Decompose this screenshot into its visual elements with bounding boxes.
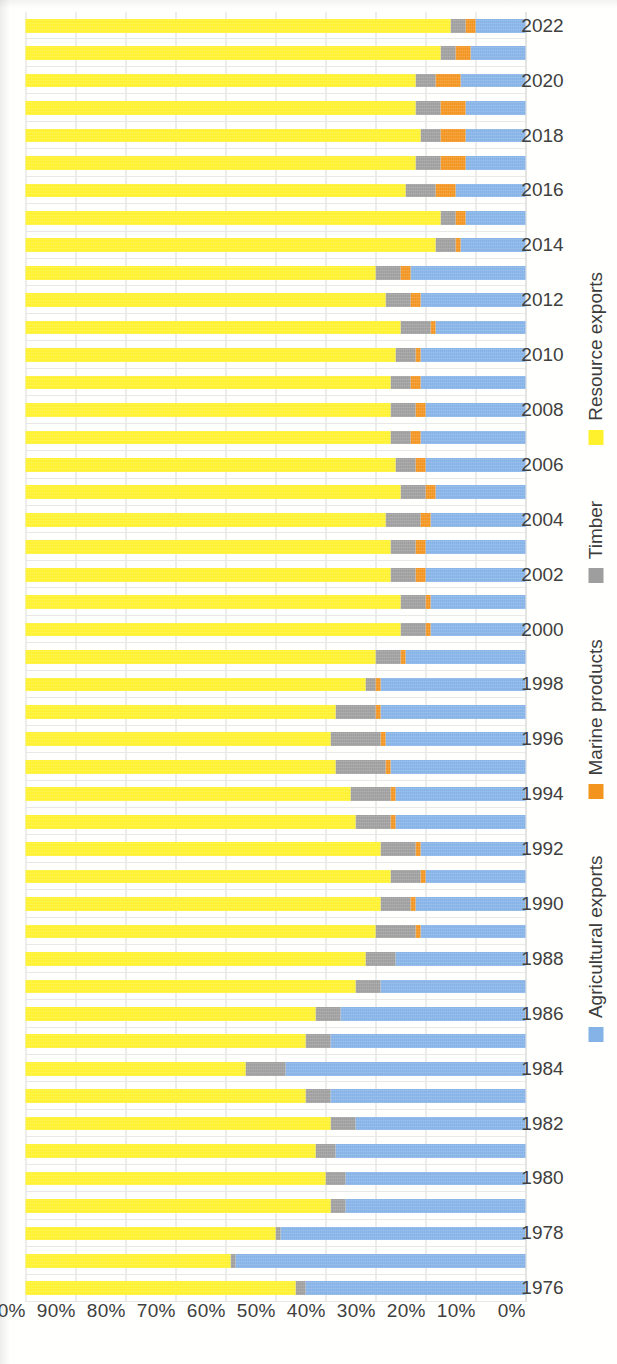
bar-segment-timber: [295, 1281, 305, 1295]
bar-1977[interactable]: [25, 1254, 525, 1268]
chart-plot-area: 0%10%20%30%40%50%60%70%80%90%100%: [25, 12, 525, 1302]
bar-segment-marine: [415, 403, 425, 417]
bar-1989[interactable]: [25, 925, 525, 939]
bar-segment-resource: [25, 293, 385, 307]
bar-1991[interactable]: [25, 870, 525, 884]
bar-1978[interactable]: [25, 1227, 525, 1241]
bar-segment-timber: [415, 74, 435, 88]
year-tick-2016: 2016: [531, 169, 553, 211]
bar-segment-timber: [375, 650, 400, 664]
bar-2015[interactable]: [25, 211, 525, 225]
bar-2001[interactable]: [25, 595, 525, 609]
bar-segment-resource: [25, 211, 440, 225]
bar-1999[interactable]: [25, 650, 525, 664]
bar-2010[interactable]: [25, 348, 525, 362]
bar-segment-marine: [420, 870, 425, 884]
category-separator: [25, 395, 525, 396]
bar-segment-agri: [305, 1281, 525, 1295]
year-tick-1976: 1976: [531, 1267, 553, 1309]
year-tick-label: 2008: [521, 399, 563, 421]
category-separator: [25, 450, 525, 451]
bar-2002[interactable]: [25, 568, 525, 582]
category-separator: [25, 66, 525, 67]
year-tick-label: 2016: [521, 179, 563, 201]
year-tick-label: 2000: [521, 619, 563, 641]
bar-1994[interactable]: [25, 787, 525, 801]
bar-segment-timber: [365, 678, 375, 692]
legend-item-agri[interactable]: Agricultural exports: [584, 855, 606, 1042]
legend-item-timber[interactable]: Timber: [584, 501, 606, 583]
bar-segment-agri: [455, 184, 525, 198]
bar-2008[interactable]: [25, 403, 525, 417]
bar-1997[interactable]: [25, 705, 525, 719]
bar-2017[interactable]: [25, 156, 525, 170]
bar-segment-agri: [465, 101, 525, 115]
year-tick-label: 2014: [521, 234, 563, 256]
value-axis-tick-10: 10%: [464, 1311, 486, 1350]
bar-segment-timber: [275, 1227, 280, 1241]
category-separator: [25, 1027, 525, 1028]
bar-1982[interactable]: [25, 1117, 525, 1131]
bar-2011[interactable]: [25, 321, 525, 335]
bar-segment-resource: [25, 321, 400, 335]
bar-2009[interactable]: [25, 376, 525, 390]
bar-2006[interactable]: [25, 458, 525, 472]
bar-2021[interactable]: [25, 46, 525, 60]
bar-1987[interactable]: [25, 980, 525, 994]
year-tick-2008: 2008: [531, 389, 553, 431]
bar-1976[interactable]: [25, 1281, 525, 1295]
category-separator: [25, 889, 525, 890]
bar-2007[interactable]: [25, 431, 525, 445]
bar-segment-resource: [25, 732, 330, 746]
bar-segment-marine: [420, 513, 430, 527]
bar-1992[interactable]: [25, 842, 525, 856]
bar-segment-timber: [390, 568, 415, 582]
bar-1985[interactable]: [25, 1034, 525, 1048]
year-tick-label: 1994: [521, 783, 563, 805]
category-separator: [25, 670, 525, 671]
category-separator: [25, 1274, 525, 1275]
bar-segment-timber: [420, 129, 440, 143]
bar-1998[interactable]: [25, 678, 525, 692]
bar-2013[interactable]: [25, 266, 525, 280]
bar-1993[interactable]: [25, 815, 525, 829]
bar-2012[interactable]: [25, 293, 525, 307]
bar-1980[interactable]: [25, 1172, 525, 1186]
bar-segment-timber: [375, 925, 415, 939]
bar-1984[interactable]: [25, 1062, 525, 1076]
bar-2004[interactable]: [25, 513, 525, 527]
bar-segment-timber: [330, 732, 380, 746]
bar-2022[interactable]: [25, 19, 525, 33]
bar-1983[interactable]: [25, 1089, 525, 1103]
bar-segment-marine: [410, 376, 420, 390]
bar-2003[interactable]: [25, 540, 525, 554]
bar-1990[interactable]: [25, 897, 525, 911]
legend-item-resource[interactable]: Resource exports: [584, 272, 606, 445]
bar-segment-timber: [245, 1062, 285, 1076]
bar-1979[interactable]: [25, 1199, 525, 1213]
bar-segment-agri: [420, 376, 525, 390]
bar-1986[interactable]: [25, 1007, 525, 1021]
bar-2005[interactable]: [25, 485, 525, 499]
category-separator: [25, 725, 525, 726]
bar-segment-marine: [455, 238, 460, 252]
bar-segment-agri: [460, 238, 525, 252]
bar-1995[interactable]: [25, 760, 525, 774]
bar-2019[interactable]: [25, 101, 525, 115]
bar-segment-timber: [380, 842, 415, 856]
bar-segment-resource: [25, 348, 395, 362]
bar-2016[interactable]: [25, 184, 525, 198]
bar-1996[interactable]: [25, 732, 525, 746]
bar-2018[interactable]: [25, 129, 525, 143]
bar-2020[interactable]: [25, 74, 525, 88]
bar-2000[interactable]: [25, 623, 525, 637]
bar-1988[interactable]: [25, 952, 525, 966]
category-separator: [25, 752, 525, 753]
value-axis-tick-0: 0%: [514, 1311, 536, 1339]
year-tick-1990: 1990: [531, 883, 553, 925]
legend-item-marine[interactable]: Marine products: [584, 639, 606, 799]
bar-segment-agri: [380, 705, 525, 719]
bar-2014[interactable]: [25, 238, 525, 252]
bar-1981[interactable]: [25, 1144, 525, 1158]
bar-segment-resource: [25, 1144, 315, 1158]
